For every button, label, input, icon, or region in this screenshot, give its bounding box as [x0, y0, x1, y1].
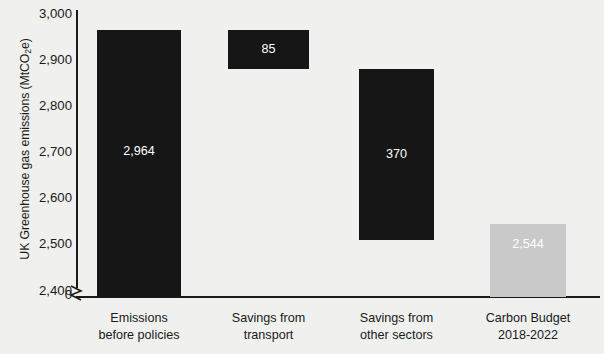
waterfall-chart: UK Greenhouse gas emissions (MtCO2e) 2,4…: [0, 0, 604, 354]
bar-value-label: 85: [261, 43, 275, 56]
category-label-line: Emissions: [64, 310, 214, 327]
bar-4[interactable]: 2,544: [490, 224, 566, 297]
bar-value-label: 2,964: [97, 145, 181, 158]
bar-2[interactable]: 85: [228, 30, 309, 69]
plot-area: 2,964853702,544: [0, 0, 604, 298]
bar-value-label: 2,544: [490, 238, 566, 251]
category-label-line: other sectors: [322, 327, 472, 344]
category-label-3: Savings fromother sectors: [322, 310, 472, 344]
category-label-line: Carbon Budget: [453, 310, 603, 327]
category-label-line: before policies: [64, 327, 214, 344]
category-label-line: 2018-2022: [453, 327, 603, 344]
x-axis-category-labels: Emissionsbefore policiesSavings fromtran…: [0, 302, 604, 354]
bar-1[interactable]: 2,964: [97, 30, 181, 297]
category-label-4: Carbon Budget2018-2022: [453, 310, 603, 344]
category-label-1: Emissionsbefore policies: [64, 310, 214, 344]
category-label-line: Savings from: [322, 310, 472, 327]
bar-3[interactable]: 370: [359, 69, 434, 240]
bar-value-label: 370: [386, 148, 407, 161]
